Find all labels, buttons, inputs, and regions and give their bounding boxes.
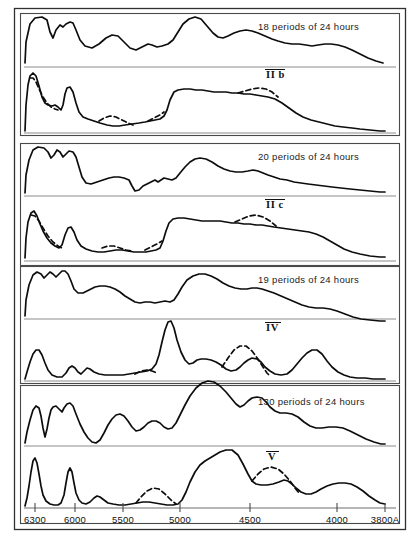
trace-130-periods bbox=[25, 381, 385, 444]
trace-IIc-dash-a bbox=[31, 215, 62, 248]
group-2-lower-label: II c bbox=[266, 199, 284, 210]
axis-label-5000: 5000 bbox=[169, 514, 191, 525]
group-4: 130 periods of 24 hours V bbox=[21, 381, 400, 524]
group-4-lower-label: V bbox=[268, 451, 276, 462]
group-3-upper-label: 19 periods of 24 hours bbox=[258, 274, 359, 285]
group-1-lower-label: II b bbox=[266, 69, 285, 80]
group-2-upper-label: 20 periods of 24 hours bbox=[258, 151, 359, 162]
trace-IIb bbox=[25, 73, 385, 131]
wavelength-axis: 6300 6000 5500 5000 4500 4000 3800A bbox=[24, 503, 400, 525]
group-3: 19 periods of 24 hours IV bbox=[21, 267, 400, 384]
group-1-upper-label: 18 periods of 24 hours bbox=[258, 21, 359, 32]
trace-V bbox=[25, 450, 385, 506]
axis-label-5500: 5500 bbox=[112, 514, 134, 525]
axis-label-6300: 6300 bbox=[24, 514, 46, 525]
trace-IV bbox=[25, 321, 385, 379]
trace-V-dash-b bbox=[252, 467, 299, 493]
outer-frame bbox=[15, 9, 406, 530]
axis-label-3800A: 3800A bbox=[371, 514, 400, 525]
axis-label-6000: 6000 bbox=[64, 514, 86, 525]
group-2: 20 periods of 24 hours II c bbox=[21, 144, 400, 266]
spectra-figure: 18 periods of 24 hours II b 20 periods o… bbox=[0, 0, 420, 543]
group-4-upper-label: 130 periods of 24 hours bbox=[258, 396, 365, 407]
group-3-lower-label: IV bbox=[266, 322, 279, 333]
trace-IIc bbox=[25, 211, 385, 258]
axis-label-4500: 4500 bbox=[239, 514, 261, 525]
axis-label-4000: 4000 bbox=[326, 514, 348, 525]
group-1: 18 periods of 24 hours II b bbox=[21, 14, 400, 136]
figure-root: 18 periods of 24 hours II b 20 periods o… bbox=[0, 0, 420, 543]
